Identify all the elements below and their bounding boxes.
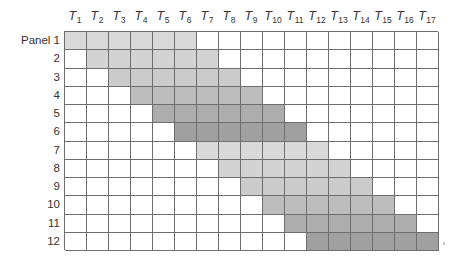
grid-cell-empty <box>395 142 417 160</box>
column-header-subscript: 1 <box>77 15 82 25</box>
grid-cell-empty <box>395 50 417 68</box>
grid-cell-empty <box>109 123 131 141</box>
column-header-letter: T <box>352 9 360 23</box>
grid-cell-active <box>285 123 307 141</box>
grid-cell-empty <box>417 142 439 160</box>
grid-cell-empty <box>263 233 285 251</box>
grid-cell-active <box>307 233 329 251</box>
row-label-7: 7 <box>54 141 60 159</box>
schedule-grid <box>64 31 438 250</box>
grid-cell-empty <box>153 142 175 160</box>
column-header-letter: T <box>113 9 121 23</box>
grid-cell-empty <box>87 215 109 233</box>
grid-cell-empty <box>131 160 153 178</box>
grid-cell-active <box>395 215 417 233</box>
grid-cell-active <box>329 196 351 214</box>
grid-cell-empty <box>87 123 109 141</box>
grid-cell-empty <box>417 123 439 141</box>
grid-cell-empty <box>241 196 263 214</box>
grid-cell-empty <box>175 233 197 251</box>
grid-cell-empty <box>373 123 395 141</box>
grid-cell-empty <box>175 215 197 233</box>
column-header-subscript: 10 <box>272 15 281 25</box>
grid-cell-empty <box>395 105 417 123</box>
column-header-t12: T12 <box>306 9 328 29</box>
grid-cell-empty <box>351 32 373 50</box>
grid-cell-empty <box>109 178 131 196</box>
grid-cell-empty <box>219 196 241 214</box>
grid-cell-empty <box>87 233 109 251</box>
grid-cell-empty <box>417 196 439 214</box>
grid-cell-empty <box>241 69 263 87</box>
grid-cell-active <box>263 123 285 141</box>
grid-cell-empty <box>329 69 351 87</box>
column-header-subscript: 14 <box>360 15 369 25</box>
grid-cell-empty <box>417 160 439 178</box>
grid-cell-empty <box>131 123 153 141</box>
grid-cell-empty <box>131 196 153 214</box>
column-header-letter: T <box>245 9 253 23</box>
grid-cell-empty <box>109 142 131 160</box>
row-label-3: 3 <box>54 68 60 86</box>
row-label-10: 10 <box>47 195 60 213</box>
grid-cell-active <box>219 69 241 87</box>
column-header-letter: T <box>69 9 77 23</box>
column-header-subscript: 6 <box>187 15 192 25</box>
grid-cell-empty <box>285 105 307 123</box>
row-labels: Panel 123456789101112 <box>0 31 60 250</box>
grid-cell-empty <box>285 69 307 87</box>
grid-cell-active <box>241 178 263 196</box>
grid-cell-empty <box>175 196 197 214</box>
grid-cell-empty <box>329 123 351 141</box>
grid-cell-empty <box>65 233 87 251</box>
grid-cell-active <box>153 87 175 105</box>
grid-cell-empty <box>373 160 395 178</box>
grid-cell-empty <box>65 87 87 105</box>
grid-cell-empty <box>241 233 263 251</box>
grid-cell-empty <box>65 160 87 178</box>
grid-cell-active <box>197 123 219 141</box>
grid-cell-empty <box>395 178 417 196</box>
grid-cell-empty <box>263 87 285 105</box>
grid-cell-active <box>351 215 373 233</box>
grid-cell-empty <box>263 215 285 233</box>
grid-cell-active <box>351 178 373 196</box>
grid-cell-empty <box>373 50 395 68</box>
grid-cell-active <box>263 142 285 160</box>
grid-cell-active <box>197 105 219 123</box>
grid-cell-empty <box>197 32 219 50</box>
column-header-subscript: 15 <box>382 15 391 25</box>
grid-cell-empty <box>197 160 219 178</box>
grid-cell-empty <box>109 160 131 178</box>
grid-cell-active <box>65 32 87 50</box>
grid-cell-empty <box>351 50 373 68</box>
grid-cell-empty <box>153 160 175 178</box>
grid-cell-active <box>197 87 219 105</box>
grid-cell-empty <box>417 178 439 196</box>
column-header-letter: T <box>223 9 231 23</box>
grid-cell-active <box>175 123 197 141</box>
grid-cell-active <box>329 160 351 178</box>
column-header-letter: T <box>374 9 382 23</box>
grid-cell-active <box>285 215 307 233</box>
grid-cell-empty <box>87 87 109 105</box>
grid-cell-empty <box>373 87 395 105</box>
grid-cell-empty <box>109 215 131 233</box>
grid-cell-active <box>109 32 131 50</box>
grid-cell-empty <box>131 105 153 123</box>
grid-cell-active <box>219 87 241 105</box>
grid-cell-empty <box>175 142 197 160</box>
column-header-letter: T <box>157 9 165 23</box>
row-label-4: 4 <box>54 86 60 104</box>
grid-cell-empty <box>395 32 417 50</box>
grid-cell-empty <box>65 215 87 233</box>
column-header-letter: T <box>308 9 316 23</box>
grid-cell-empty <box>87 105 109 123</box>
grid-cell-empty <box>285 32 307 50</box>
column-header-t14: T14 <box>350 9 372 29</box>
column-header-letter: T <box>287 9 295 23</box>
grid-cell-empty <box>329 50 351 68</box>
row-label-9: 9 <box>54 177 60 195</box>
grid-cell-active <box>285 178 307 196</box>
grid-cell-active <box>241 160 263 178</box>
